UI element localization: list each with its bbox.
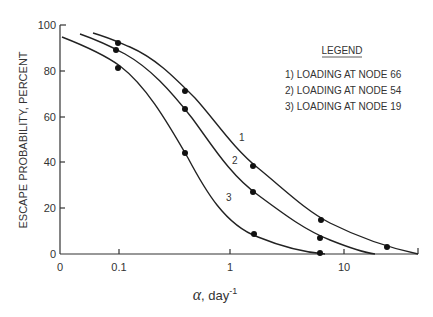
point-s3-1 <box>115 65 121 71</box>
point-s1-4 <box>318 217 324 223</box>
curve-label-2: 2 <box>232 155 238 166</box>
x-unit-exponent: -1 <box>229 286 237 296</box>
x-tick-1: 1 <box>227 261 233 273</box>
curve-node-54 <box>80 34 375 254</box>
x-unit: , day <box>201 288 230 303</box>
y-tick-20: 20 <box>44 202 56 214</box>
point-s1-3 <box>250 163 256 169</box>
point-s3-2 <box>182 150 188 156</box>
y-tick-100: 100 <box>38 19 56 31</box>
legend-item-3: 3) LOADING AT NODE 19 <box>285 101 402 112</box>
y-tick-80: 80 <box>44 65 56 77</box>
x-tick-0.1: 0.1 <box>111 261 126 273</box>
legend-item-2: 2) LOADING AT NODE 54 <box>285 85 402 96</box>
point-s2-2 <box>182 106 188 112</box>
curve-node-66 <box>93 33 418 254</box>
y-tick-0: 0 <box>50 248 56 260</box>
legend-item-1: 1) LOADING AT NODE 66 <box>285 69 402 80</box>
x-tick-0: 0 <box>57 261 63 273</box>
x-axis <box>60 248 418 254</box>
x-axis-label: α, day-1 <box>193 286 238 303</box>
point-s2-1 <box>113 47 119 53</box>
chart: 100 80 60 40 20 0 0 0.1 1 10 ESCAPE PROB… <box>0 0 433 317</box>
point-s3-4 <box>317 250 323 256</box>
x-tick-10: 10 <box>338 261 350 273</box>
point-s1-2 <box>182 88 188 94</box>
legend-title: LEGEND <box>321 45 362 56</box>
point-s2-4 <box>317 235 323 241</box>
point-s1-5 <box>384 244 390 250</box>
legend: LEGEND 1) LOADING AT NODE 66 2) LOADING … <box>285 45 402 112</box>
point-s3-3 <box>251 231 257 237</box>
point-s1-1 <box>115 40 121 46</box>
y-tick-60: 60 <box>44 111 56 123</box>
y-tick-40: 40 <box>44 156 56 168</box>
curve-label-1: 1 <box>239 132 245 143</box>
curve-label-3: 3 <box>226 192 232 203</box>
y-axis-label: ESCAPE PROBABILITY, PERCENT <box>17 51 29 228</box>
point-s2-3 <box>250 189 256 195</box>
y-axis <box>60 25 66 254</box>
